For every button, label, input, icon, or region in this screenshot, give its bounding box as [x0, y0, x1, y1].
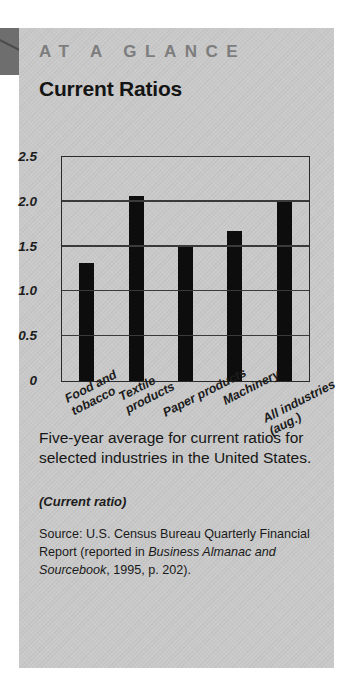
figure-source: Source: U.S. Census Bureau Quarterly Fin… — [39, 526, 319, 580]
chart-bar-slot — [161, 157, 210, 381]
chart-bar — [227, 231, 242, 381]
chart-y-tick: 1.5 — [18, 238, 37, 253]
chart-y-tick: 0.5 — [18, 328, 37, 343]
bar-chart: 2.52.01.51.00.50 Food andtobaccoTextilep… — [19, 118, 334, 418]
figure-subnote: (Current ratio) — [39, 494, 126, 509]
chart-bar-slot — [210, 157, 259, 381]
section-kicker: AT A GLANCE — [39, 42, 246, 62]
chart-gridline — [62, 245, 309, 246]
figure-caption: Five-year average for current ratios for… — [39, 428, 317, 469]
chart-plot-area — [61, 156, 310, 382]
chart-bar-slot — [62, 157, 111, 381]
chart-y-tick: 1.0 — [18, 283, 37, 298]
chart-y-tick: 0 — [29, 373, 37, 388]
chart-bar — [277, 202, 292, 381]
sidebar-tab-marker — [0, 28, 19, 75]
figure-panel: AT A GLANCE Current Ratios 2.52.01.51.00… — [19, 28, 334, 668]
chart-bar-slot — [111, 157, 160, 381]
chart-bar — [129, 196, 144, 381]
page-title: Current Ratios — [39, 77, 182, 101]
chart-y-tick: 2.0 — [18, 193, 37, 208]
chart-y-tick: 2.5 — [18, 149, 37, 164]
source-tail: , 1995, p. 202). — [106, 563, 191, 577]
chart-gridline — [62, 290, 309, 291]
chart-gridline — [62, 335, 309, 336]
chart-bars — [62, 157, 309, 381]
chart-gridline — [62, 200, 309, 201]
chart-bar — [178, 247, 193, 381]
chart-bar-slot — [260, 157, 309, 381]
chart-bar — [79, 263, 94, 381]
